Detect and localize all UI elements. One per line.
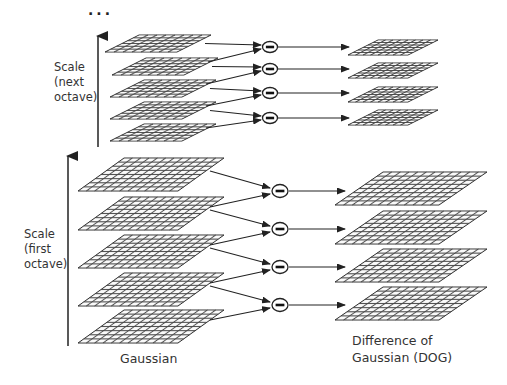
bottom-octave-scale-label: Scale (first octave) [24, 227, 67, 272]
bottom-diff-input-arrow [210, 171, 270, 188]
top-diff-input-arrow [208, 49, 261, 62]
top-gaussian-layer [110, 124, 216, 141]
bottom-dog-layer [335, 172, 487, 205]
top-octave-scale-label: Scale (next octave) [54, 60, 97, 105]
top-dog-layer [348, 40, 438, 55]
top-gaussian-layer [110, 80, 216, 97]
dog-pyramid-diagram [0, 0, 507, 385]
label-line: octave) [24, 257, 67, 272]
dog-caption-line1: Difference of [352, 332, 452, 349]
bottom-gaussian-layer [78, 310, 224, 343]
bottom-gaussian-layer [78, 235, 224, 268]
top-diff-input-arrow [205, 44, 261, 46]
bottom-dog-layer [335, 211, 487, 244]
bottom-dog-layer [335, 249, 487, 282]
label-line: (first [24, 242, 67, 257]
label-line: octave) [54, 90, 97, 105]
bottom-gaussian-layer [78, 158, 224, 191]
top-diff-input-arrow [206, 71, 261, 84]
gaussian-caption: Gaussian [120, 351, 177, 366]
top-diff-input-arrow [206, 95, 261, 106]
bottom-gaussian-layer [78, 273, 224, 306]
bottom-diff-input-arrow [210, 248, 270, 264]
top-dog-layer [348, 110, 438, 125]
bottom-gaussian-layer [78, 197, 224, 230]
label-line: Scale [54, 60, 97, 75]
bottom-diff-input-arrow [210, 210, 270, 226]
bottom-diff-input-arrow [210, 286, 270, 302]
label-line: (next [54, 75, 97, 90]
dog-caption: Difference of Gaussian (DOG) [352, 332, 452, 366]
top-dog-layer [348, 63, 438, 78]
dog-caption-line2: Gaussian (DOG) [352, 349, 452, 366]
top-gaussian-layer [105, 35, 211, 52]
label-line: Scale [24, 227, 67, 242]
top-gaussian-layer [110, 102, 216, 119]
top-diff-input-arrow [210, 111, 261, 117]
bottom-dog-layer [335, 287, 487, 320]
top-dog-layer [348, 87, 438, 102]
top-diff-input-arrow [210, 89, 261, 92]
top-diff-input-arrow [212, 67, 261, 68]
top-gaussian-layer [112, 58, 218, 75]
